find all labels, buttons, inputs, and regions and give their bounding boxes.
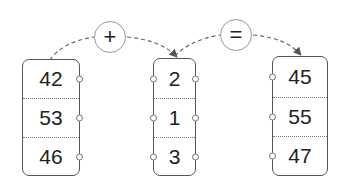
cell-value: 53 bbox=[39, 106, 62, 130]
cell-value: 45 bbox=[288, 65, 311, 89]
cell-value: 42 bbox=[39, 67, 62, 91]
left-cell-2: 53 bbox=[23, 98, 79, 137]
port-icon bbox=[269, 153, 276, 160]
arrow-middle-to-equals bbox=[175, 35, 220, 56]
arrow-left-to-plus bbox=[50, 37, 94, 60]
port-icon bbox=[150, 115, 157, 122]
result-column: 45 55 47 bbox=[272, 56, 328, 176]
left-cell-3: 46 bbox=[23, 137, 79, 175]
middle-cell-3: 3 bbox=[154, 137, 195, 175]
port-icon bbox=[76, 153, 83, 160]
result-cell-3: 47 bbox=[273, 136, 327, 175]
port-icon bbox=[192, 115, 199, 122]
port-icon bbox=[150, 75, 157, 82]
port-icon bbox=[269, 74, 276, 81]
cell-value: 46 bbox=[39, 145, 62, 169]
port-icon bbox=[192, 75, 199, 82]
port-icon bbox=[192, 153, 199, 160]
cell-value: 3 bbox=[169, 145, 181, 169]
arrow-equals-to-result bbox=[253, 35, 300, 54]
middle-operand-column: 2 1 3 bbox=[153, 58, 196, 176]
port-icon bbox=[76, 115, 83, 122]
cell-value: 47 bbox=[288, 144, 311, 168]
left-cell-1: 42 bbox=[23, 60, 79, 98]
cell-value: 55 bbox=[288, 105, 311, 129]
port-icon bbox=[269, 114, 276, 121]
plus-symbol: + bbox=[104, 24, 117, 50]
cell-value: 1 bbox=[169, 106, 181, 130]
middle-cell-2: 1 bbox=[154, 98, 195, 137]
equals-symbol: = bbox=[230, 22, 243, 48]
middle-cell-1: 2 bbox=[154, 59, 195, 98]
result-cell-1: 45 bbox=[273, 57, 327, 97]
left-operand-column: 42 53 46 bbox=[22, 59, 80, 176]
plus-operator: + bbox=[94, 21, 126, 53]
result-cell-2: 55 bbox=[273, 97, 327, 136]
port-icon bbox=[150, 153, 157, 160]
cell-value: 2 bbox=[169, 67, 181, 91]
arrow-plus-to-middle bbox=[127, 37, 176, 56]
port-icon bbox=[76, 76, 83, 83]
equals-operator: = bbox=[220, 19, 252, 51]
